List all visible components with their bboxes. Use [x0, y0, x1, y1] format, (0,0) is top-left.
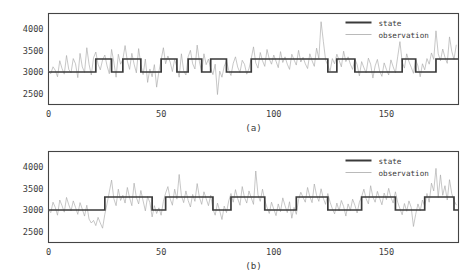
x-tick-label: 50 [156, 109, 166, 119]
x-tick-label: 100 [266, 109, 282, 119]
y-tick-label: 2500 [23, 227, 44, 237]
x-tick-label: 100 [266, 247, 282, 257]
legend-label-observation: observation [379, 31, 429, 40]
chart-panel-a: 2500300035004000050100150stateobservatio… [0, 0, 475, 138]
chart-panel-b: 2500300035004000050100150stateobservatio… [0, 138, 475, 276]
chart-svg-a: 2500300035004000050100150stateobservatio… [0, 0, 475, 138]
figure-state-observation: 2500300035004000050100150stateobservatio… [0, 0, 475, 276]
y-tick-label: 3500 [23, 184, 44, 194]
x-tick-label: 0 [46, 247, 51, 257]
y-tick-label: 3500 [23, 46, 44, 56]
y-tick-label: 4000 [23, 24, 44, 34]
y-tick-label: 3000 [23, 205, 44, 215]
y-tick-label: 3000 [23, 67, 44, 77]
legend: stateobservation [346, 19, 429, 40]
legend-label-observation: observation [379, 169, 429, 178]
panel-sub-label: (b) [245, 260, 262, 271]
x-tick-label: 50 [156, 247, 166, 257]
chart-svg-b: 2500300035004000050100150stateobservatio… [0, 138, 475, 276]
legend-label-state: state [379, 19, 402, 28]
x-tick-label: 150 [379, 109, 395, 119]
legend-label-state: state [379, 157, 402, 166]
y-tick-label: 2500 [23, 89, 44, 99]
x-tick-label: 0 [46, 109, 51, 119]
x-tick-label: 150 [379, 247, 395, 257]
legend: stateobservation [346, 157, 429, 178]
panel-sub-label: (a) [245, 122, 262, 133]
y-tick-label: 4000 [23, 162, 44, 172]
